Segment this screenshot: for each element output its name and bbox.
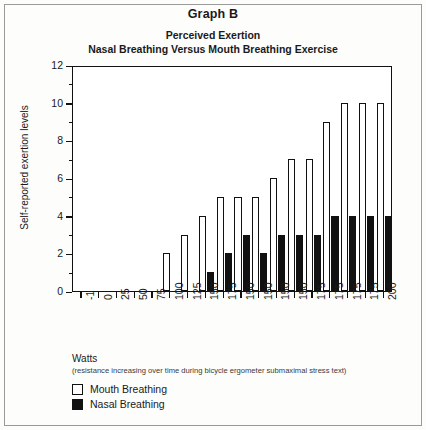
legend-swatch-nasal-icon — [72, 399, 83, 410]
legend-item: Mouth Breathing — [72, 382, 167, 397]
bar-group — [251, 67, 269, 291]
x-tick-mark — [276, 292, 277, 298]
x-tick-mark — [116, 292, 117, 298]
bar-group — [215, 67, 233, 291]
y-tick-label: 8 — [57, 134, 63, 147]
legend-item: Nasal Breathing — [72, 397, 167, 412]
x-tick-label: 175 — [369, 282, 380, 300]
bar-mouth-breathing — [217, 197, 224, 291]
x-tick-mark — [98, 292, 99, 298]
bar-group — [144, 67, 162, 291]
bar-mouth-breathing — [306, 159, 313, 291]
plot-area — [72, 66, 392, 292]
bar-mouth-breathing — [270, 178, 277, 291]
x-tick-label: 125 — [192, 282, 203, 300]
x-tick-mark — [365, 292, 366, 298]
x-tick-mark — [240, 292, 241, 298]
legend-label: Nasal Breathing — [90, 398, 165, 411]
bar-group — [91, 67, 109, 291]
bar-group — [304, 67, 322, 291]
legend-swatch-mouth-icon — [72, 384, 83, 395]
page-title: Graph B — [0, 6, 426, 22]
bar-mouth-breathing — [359, 103, 366, 291]
y-tick-label: 2 — [57, 247, 63, 260]
bar-mouth-breathing — [341, 103, 348, 291]
x-tick-mark — [258, 292, 259, 298]
x-tick-mark — [169, 292, 170, 298]
y-tick-label: 12 — [51, 59, 63, 72]
x-tick-label: 150 — [280, 282, 291, 300]
bar-group — [109, 67, 127, 291]
x-axis: -102550751001251501751501501501501751751… — [72, 292, 392, 352]
bar-group — [269, 67, 287, 291]
bar-group — [375, 67, 393, 291]
bar-group — [126, 67, 144, 291]
x-tick-mark — [134, 292, 135, 298]
x-tick-mark — [223, 292, 224, 298]
bar-group — [357, 67, 375, 291]
x-tick-label: 175 — [316, 282, 327, 300]
chart-subtitle-line1: Perceived Exertion — [0, 28, 426, 42]
figure-titles: Graph B Perceived Exertion Nasal Breathi… — [0, 6, 426, 56]
x-tick-label: 0 — [103, 294, 114, 300]
x-tick-label: 150 — [245, 282, 256, 300]
bar-group — [162, 67, 180, 291]
x-axis-title: Watts — [72, 352, 97, 365]
x-tick-mark — [329, 292, 330, 298]
x-tick-mark — [187, 292, 188, 298]
bar-nasal-breathing — [331, 216, 338, 291]
x-tick-label: -1 — [85, 291, 96, 300]
y-tick-label: 6 — [57, 172, 63, 185]
bar-nasal-breathing — [367, 216, 374, 291]
bar-group — [180, 67, 198, 291]
bar-mouth-breathing — [323, 122, 330, 292]
x-tick-label: 50 — [138, 288, 149, 300]
legend-label: Mouth Breathing — [90, 383, 167, 396]
bar-mouth-breathing — [163, 253, 170, 291]
x-tick-mark — [205, 292, 206, 298]
x-tick-mark — [294, 292, 295, 298]
x-tick-mark — [347, 292, 348, 298]
bar-group — [340, 67, 358, 291]
bar-group — [322, 67, 340, 291]
x-tick-label: 150 — [298, 282, 309, 300]
bar-mouth-breathing — [252, 197, 259, 291]
x-tick-label: 150 — [209, 282, 220, 300]
bar-nasal-breathing — [385, 216, 392, 291]
bar-mouth-breathing — [199, 216, 206, 291]
x-tick-label: 175 — [334, 282, 345, 300]
x-tick-label: 75 — [156, 288, 167, 300]
x-tick-mark — [80, 292, 81, 298]
bar-mouth-breathing — [288, 159, 295, 291]
chart-legend: Mouth BreathingNasal Breathing — [72, 382, 167, 412]
bar-group — [197, 67, 215, 291]
bar-series-container — [73, 67, 391, 291]
chart-subtitle-line2: Nasal Breathing Versus Mouth Breathing E… — [0, 42, 426, 56]
bar-group — [233, 67, 251, 291]
x-tick-mark — [311, 292, 312, 298]
x-tick-label: 175 — [352, 282, 363, 300]
bar-mouth-breathing — [234, 197, 241, 291]
figure-panel: Graph B Perceived Exertion Nasal Breathi… — [0, 0, 426, 430]
bar-nasal-breathing — [349, 216, 356, 291]
x-tick-label: 25 — [120, 288, 131, 300]
x-tick-label: 175 — [227, 282, 238, 300]
y-tick-label: 4 — [57, 210, 63, 223]
x-tick-mark — [151, 292, 152, 298]
bar-group — [73, 67, 91, 291]
y-tick-label: 10 — [51, 97, 63, 110]
x-tick-label: 200 — [387, 282, 398, 300]
bar-group — [286, 67, 304, 291]
bar-mouth-breathing — [377, 103, 384, 291]
y-axis-title: Self-reported exertion levels — [19, 68, 30, 268]
x-tick-mark — [383, 292, 384, 298]
x-tick-label: 100 — [174, 282, 185, 300]
x-axis-note: (resistance increasing over time during … — [72, 365, 346, 376]
x-tick-label: 150 — [263, 282, 274, 300]
y-axis: Self-reported exertion levels 024681012 — [0, 66, 72, 292]
y-tick-label: 0 — [57, 285, 63, 298]
